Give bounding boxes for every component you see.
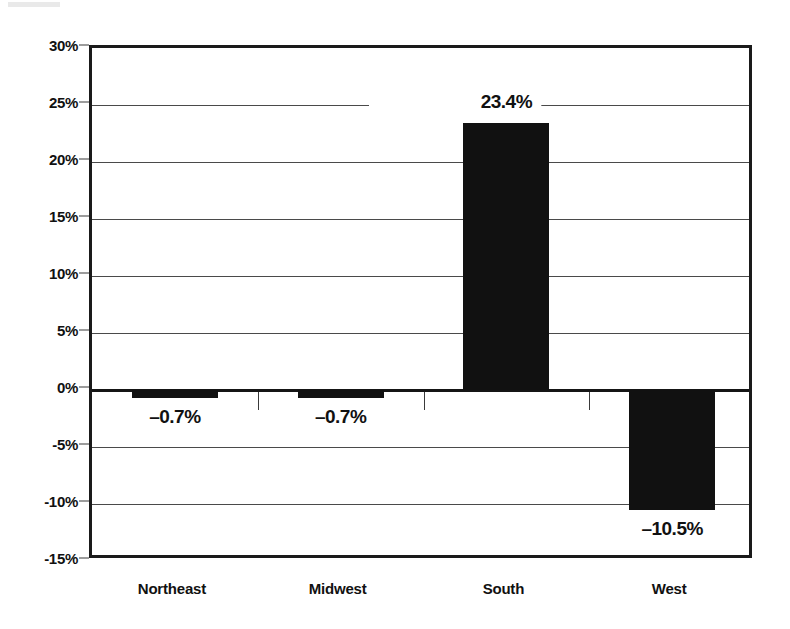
gridline-segment [92,105,369,106]
category-label: Northeast [138,580,206,597]
bar-chart: 30%25%20%15%10%5%0%-5%-10%-15% –0.7%–0.7… [0,0,790,629]
y-axis-tick-mark [79,330,89,331]
x-axis-tick-mark [424,392,425,410]
y-axis-tick-mark [79,273,89,274]
data-label: 23.4% [472,91,541,113]
y-axis-tick-mark [79,216,89,217]
y-axis-tick-mark [79,159,89,160]
y-axis-tick-label: -15% [14,550,78,567]
category-label: South [483,580,525,597]
y-axis-tick-label: 25% [14,94,78,111]
y-axis-tick-label: 15% [14,208,78,225]
gridline [92,105,749,106]
y-axis-tick-mark [79,387,89,388]
y-axis-tick-label: 30% [14,37,78,54]
y-axis-tick-label: 0% [14,379,78,396]
x-axis-tick-mark [258,392,259,410]
y-axis-tick-mark [79,444,89,445]
gridline [92,219,749,220]
y-axis-tick-mark [79,102,89,103]
bar [463,123,549,390]
data-label: –10.5% [641,518,702,540]
category-label: Midwest [309,580,367,597]
y-axis-tick-label: -10% [14,493,78,510]
gridline [92,333,749,334]
y-axis-tick-label: 5% [14,322,78,339]
x-axis-tick-mark [589,392,590,410]
data-label: –0.7% [149,406,200,428]
bar [132,390,218,398]
data-label: –0.7% [315,406,366,428]
bar [298,390,384,398]
category-label: West [652,580,687,597]
y-axis-tick-mark [79,501,89,502]
plot-area: –0.7%–0.7%23.4%–10.5% [89,45,752,558]
y-axis-tick-mark [79,45,89,46]
y-axis-tick-label: 10% [14,265,78,282]
y-axis-tick-mark [79,558,89,559]
bar [629,390,715,510]
gridline [92,276,749,277]
y-axis-tick-label: -5% [14,436,78,453]
gridline [92,162,749,163]
y-axis-tick-label: 20% [14,151,78,168]
scan-artifact [8,2,60,7]
